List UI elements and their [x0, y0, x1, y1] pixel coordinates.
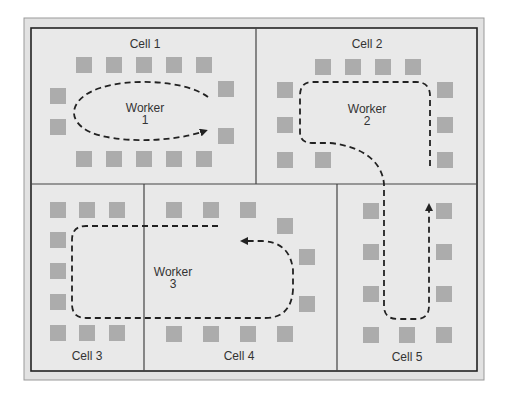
plant-floor-border [31, 28, 477, 371]
cell-5-label: Cell 5 [392, 350, 423, 364]
worker-3-label-line2: 3 [170, 277, 177, 291]
cell-3-label: Cell 3 [72, 349, 103, 363]
cell-4-label: Cell 4 [224, 349, 255, 363]
work-cell-layout-diagram: Cell 1 Cell 2 Cell 3 Cell 4 Cell 5 Worke… [0, 0, 506, 405]
cell-2-label: Cell 2 [352, 37, 383, 51]
worker-2-label-line2: 2 [364, 114, 371, 128]
worker-1-label-line2: 1 [142, 113, 149, 127]
cell-1-label: Cell 1 [130, 37, 161, 51]
